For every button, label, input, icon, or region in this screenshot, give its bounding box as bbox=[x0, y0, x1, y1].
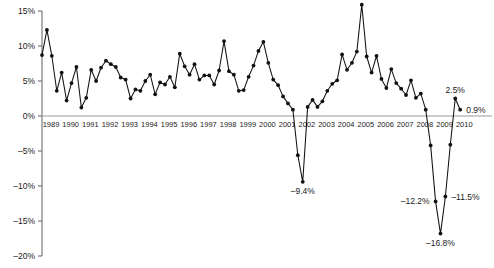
data-point bbox=[70, 81, 74, 85]
data-point bbox=[124, 78, 128, 82]
data-point bbox=[75, 65, 79, 69]
x-tick-label: 2006 bbox=[377, 120, 394, 129]
data-point bbox=[384, 86, 388, 90]
data-point bbox=[389, 67, 393, 71]
data-point bbox=[257, 49, 261, 53]
data-point bbox=[306, 105, 310, 109]
annotation-label: 15.9% bbox=[350, 0, 375, 1]
data-point bbox=[311, 98, 315, 102]
data-point bbox=[188, 73, 192, 77]
data-point bbox=[168, 75, 172, 79]
data-point bbox=[291, 108, 295, 112]
annotation-label: –11.5% bbox=[451, 192, 480, 202]
data-point bbox=[414, 96, 418, 100]
data-point bbox=[458, 108, 462, 112]
data-point bbox=[301, 180, 305, 184]
x-tick-label: 1997 bbox=[200, 120, 217, 129]
data-point bbox=[345, 68, 349, 72]
data-point bbox=[163, 83, 167, 87]
data-point bbox=[138, 89, 142, 93]
x-tick-label: 2005 bbox=[358, 120, 375, 129]
annotation-label: –12.2% bbox=[401, 196, 430, 206]
data-point bbox=[355, 50, 359, 54]
data-point bbox=[94, 79, 98, 83]
data-point bbox=[325, 89, 329, 93]
data-point bbox=[60, 71, 64, 75]
data-point bbox=[99, 66, 103, 70]
data-point bbox=[375, 54, 379, 58]
data-point bbox=[129, 97, 133, 101]
data-point bbox=[119, 76, 123, 80]
data-point bbox=[40, 53, 44, 57]
data-point bbox=[365, 55, 369, 59]
data-point bbox=[114, 65, 118, 69]
data-point bbox=[178, 52, 182, 56]
data-point bbox=[409, 78, 413, 82]
data-point bbox=[247, 75, 251, 79]
data-point bbox=[252, 64, 256, 68]
y-tick-label: –20% bbox=[13, 251, 35, 261]
data-point bbox=[321, 99, 325, 103]
data-point bbox=[316, 105, 320, 109]
data-point bbox=[198, 78, 202, 82]
data-point bbox=[222, 39, 226, 43]
x-tick-label: 2008 bbox=[417, 120, 434, 129]
data-point bbox=[207, 74, 211, 78]
x-tick-label: 2000 bbox=[259, 120, 276, 129]
data-point bbox=[109, 62, 113, 66]
x-tick-label: 1994 bbox=[141, 120, 158, 129]
data-point bbox=[183, 64, 187, 68]
y-tick-label: –10% bbox=[13, 181, 35, 191]
data-point bbox=[281, 95, 285, 99]
data-point bbox=[380, 77, 384, 81]
annotation-label: –16.8% bbox=[426, 238, 455, 248]
data-point bbox=[232, 73, 236, 77]
data-point bbox=[173, 85, 177, 89]
x-tick-label: 2003 bbox=[318, 120, 335, 129]
y-tick-label: 0% bbox=[23, 111, 36, 121]
data-point bbox=[439, 232, 443, 236]
x-tick-label: 1998 bbox=[220, 120, 237, 129]
data-point bbox=[65, 99, 69, 103]
data-point bbox=[330, 82, 334, 86]
data-point bbox=[296, 153, 300, 157]
annotation-label: 2.5% bbox=[446, 85, 466, 95]
x-tick-label: 1989 bbox=[43, 120, 60, 129]
data-point bbox=[394, 81, 398, 85]
data-point bbox=[448, 143, 452, 147]
data-point bbox=[50, 54, 54, 58]
y-tick-label: 5% bbox=[23, 76, 36, 86]
x-tick-label: 1993 bbox=[121, 120, 138, 129]
data-point bbox=[45, 28, 49, 32]
x-tick-label: 2004 bbox=[338, 120, 355, 129]
data-point bbox=[424, 108, 428, 112]
data-point bbox=[143, 79, 147, 83]
x-axis-tick-labels: 1989199019911992199319941995199619971998… bbox=[43, 120, 473, 129]
x-tick-label: 2010 bbox=[456, 120, 473, 129]
y-tick-label: –5% bbox=[18, 146, 35, 156]
data-point bbox=[350, 61, 354, 65]
data-point bbox=[242, 88, 246, 92]
data-point bbox=[370, 71, 374, 75]
data-point bbox=[360, 3, 364, 7]
x-tick-label: 1990 bbox=[62, 120, 79, 129]
line-chart: 15%10%5%0%–5%–10%–15%–20% 19891990199119… bbox=[0, 0, 494, 268]
annotation-label: 0.9% bbox=[466, 105, 486, 115]
data-point bbox=[134, 88, 138, 92]
data-point bbox=[404, 93, 408, 97]
data-point bbox=[419, 92, 423, 96]
data-point bbox=[79, 106, 83, 110]
chart-container: 15%10%5%0%–5%–10%–15%–20% 19891990199119… bbox=[0, 0, 494, 268]
data-point bbox=[429, 144, 433, 148]
data-point bbox=[237, 89, 241, 93]
x-tick-label: 2009 bbox=[436, 120, 453, 129]
y-tick-label: 15% bbox=[18, 6, 35, 16]
data-point bbox=[227, 69, 231, 73]
data-point bbox=[335, 78, 339, 82]
annotation-label: –9.4% bbox=[291, 186, 316, 196]
x-tick-label: 1995 bbox=[161, 120, 178, 129]
x-tick-label: 2007 bbox=[397, 120, 414, 129]
data-point bbox=[453, 97, 457, 101]
data-point bbox=[286, 102, 290, 106]
y-tick-label: 10% bbox=[18, 41, 35, 51]
